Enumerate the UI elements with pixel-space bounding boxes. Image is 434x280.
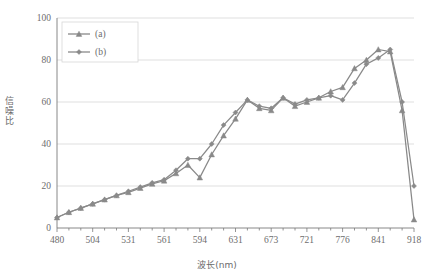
y-tick-label: 20 (42, 181, 52, 191)
legend-label: (b) (95, 47, 106, 58)
y-axis-title: 信噪比 (2, 96, 16, 126)
x-tick-label: 480 (50, 235, 65, 245)
y-tick-label: 0 (46, 223, 51, 233)
y-tick-label: 40 (42, 139, 52, 149)
x-tick-label: 594 (193, 235, 208, 245)
legend-label: (a) (95, 29, 106, 40)
x-tick-label: 721 (300, 235, 315, 245)
chart-figure: 020406080100 480504531561594631673721776… (0, 0, 434, 280)
y-tick-label: 60 (42, 97, 52, 107)
x-tick-label: 504 (86, 235, 101, 245)
x-axis-title: 波长(nm) (0, 258, 434, 271)
x-tick-label: 631 (228, 235, 243, 245)
chart-legend: (a)(b) (62, 22, 138, 62)
y-tick-label: 80 (42, 55, 52, 65)
y-tick-label: 100 (37, 13, 52, 23)
x-tick-label: 776 (335, 235, 350, 245)
x-tick-label: 531 (121, 235, 136, 245)
x-tick-label: 561 (157, 235, 172, 245)
x-tick-label: 673 (264, 235, 279, 245)
x-tick-label: 918 (407, 235, 422, 245)
x-tick-label: 841 (371, 235, 386, 245)
